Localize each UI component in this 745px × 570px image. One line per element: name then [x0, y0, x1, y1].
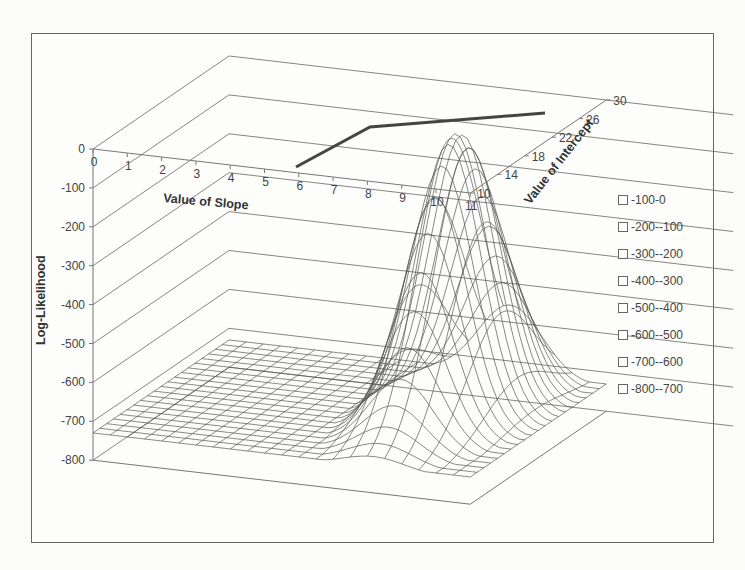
legend-swatch-icon [618, 330, 628, 340]
legend-swatch-icon [618, 222, 628, 232]
legend-swatch-icon [618, 195, 628, 205]
y-tick-label: 18 [532, 150, 546, 164]
x-tick-label: 6 [296, 179, 303, 193]
legend-item: -600--500 [618, 321, 708, 348]
legend-swatch-icon [618, 303, 628, 313]
z-tick-label: -400 [61, 298, 85, 312]
legend-item: -100-0 [618, 186, 708, 213]
x-tick-label: 7 [331, 183, 338, 197]
y-tick-label: 14 [505, 168, 519, 182]
z-tick-label: -600 [61, 375, 85, 389]
x-tick-label: 5 [262, 175, 269, 189]
z-tick-label: -700 [61, 414, 85, 428]
z-tick-label: -500 [61, 337, 85, 351]
x-tick-label: 3 [194, 167, 201, 181]
x-tick-label: 8 [365, 187, 372, 201]
legend-swatch-icon [618, 276, 628, 286]
x-tick-label: 2 [159, 163, 166, 177]
ridge-line [296, 113, 545, 167]
legend-item: -200--100 [618, 213, 708, 240]
z-axis-title: Log-Likelihood [34, 255, 48, 345]
legend-swatch-icon [618, 357, 628, 367]
legend-item: -800--700 [618, 375, 708, 402]
y-tick-label: 30 [613, 94, 627, 108]
legend-item: -400--300 [618, 267, 708, 294]
x-tick-label: 1 [125, 159, 132, 173]
x-tick-label: 4 [228, 171, 235, 185]
x-tick-label: 0 [91, 155, 98, 169]
legend-item: -700--600 [618, 348, 708, 375]
x-tick-label: 11 [465, 199, 478, 213]
x-tick-label: 9 [399, 191, 406, 205]
legend-item: -500--400 [618, 294, 708, 321]
z-tick-label: -800 [61, 453, 85, 467]
floor-base [93, 411, 606, 504]
z-tick-label: -200 [61, 220, 85, 234]
z-tick-label: 0 [78, 142, 85, 156]
legend-item: -300--200 [618, 240, 708, 267]
x-tick-label: 10 [430, 195, 444, 209]
legend-swatch-icon [618, 384, 628, 394]
y-tick-label: 10 [477, 187, 491, 201]
z-tick-label: -100 [61, 181, 85, 195]
z-tick-label: -300 [61, 259, 85, 273]
surface-mesh [93, 134, 606, 477]
legend-swatch-icon [618, 249, 628, 259]
legend: -100-0 -200--100 -300--200 -400--300 -50… [618, 186, 708, 402]
